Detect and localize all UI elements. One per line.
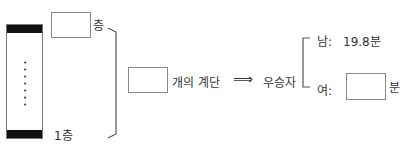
bottom-floor-label: 1층 — [54, 126, 73, 143]
male-label: 남: — [317, 32, 332, 49]
female-time-answer-box[interactable] — [346, 73, 386, 100]
stairs-count-answer-box[interactable] — [128, 67, 168, 93]
tower-dots: ••••••• — [23, 60, 27, 109]
tower-top-cap — [7, 25, 42, 33]
stairs-text: 개의 계단 — [172, 73, 220, 90]
arrow-icon: ⟹ — [233, 71, 253, 87]
tower-building: ••••••• — [6, 24, 43, 139]
winner-label: 우승자 — [263, 73, 296, 90]
top-floor-answer-box[interactable] — [51, 12, 91, 38]
male-time: 19.8분 — [343, 32, 381, 49]
female-label: 여: — [317, 81, 332, 98]
tower-bottom-cap — [7, 130, 42, 138]
top-floor-label: 층 — [93, 16, 104, 33]
female-unit: 분 — [389, 78, 400, 95]
